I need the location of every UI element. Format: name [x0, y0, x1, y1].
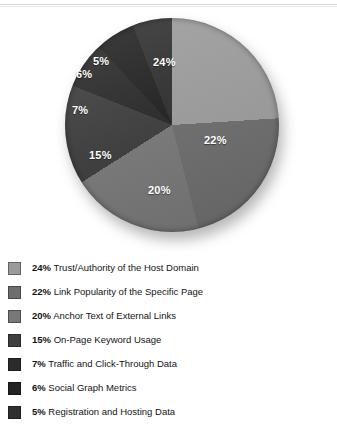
legend-percent: 22%: [32, 286, 51, 297]
legend-category-name: Link Popularity of the Specific Page: [51, 286, 203, 297]
legend-color-swatch: [8, 286, 21, 299]
legend-label: 24% Trust/Authority of the Host Domain: [32, 262, 199, 274]
legend-percent: 20%: [32, 310, 51, 321]
legend-category-name: Traffic and Click-Through Data: [46, 358, 177, 369]
legend-percent: 24%: [32, 262, 51, 273]
legend-category-name: Anchor Text of External Links: [51, 310, 176, 321]
legend-percent: 6%: [32, 382, 46, 393]
legend-label: 22% Link Popularity of the Specific Page: [32, 286, 203, 298]
legend-label: 20% Anchor Text of External Links: [32, 310, 176, 322]
legend-category-name: Registration and Hosting Data: [46, 406, 175, 417]
legend-item[interactable]: 7% Traffic and Click-Through Data: [8, 352, 328, 376]
pie-disc[interactable]: [65, 18, 279, 232]
legend-label: 15% On-Page Keyword Usage: [32, 334, 161, 346]
legend-item[interactable]: 22% Link Popularity of the Specific Page: [8, 280, 328, 304]
legend-percent: 15%: [32, 334, 51, 345]
legend-color-swatch: [8, 310, 21, 323]
legend-label: 5% Registration and Hosting Data: [32, 406, 175, 418]
legend-color-swatch: [8, 406, 21, 419]
legend-category-name: Social Graph Metrics: [46, 382, 137, 393]
legend-item[interactable]: 24% Trust/Authority of the Host Domain: [8, 256, 328, 280]
legend-label: 6% Social Graph Metrics: [32, 382, 137, 394]
legend-color-swatch: [8, 382, 21, 395]
legend-item[interactable]: 20% Anchor Text of External Links: [8, 304, 328, 328]
legend-label: 7% Traffic and Click-Through Data: [32, 358, 177, 370]
legend-percent: 7%: [32, 358, 46, 369]
legend-item[interactable]: 6% Social Graph Metrics: [8, 376, 328, 400]
legend-category-name: On-Page Keyword Usage: [51, 334, 161, 345]
legend-color-swatch: [8, 262, 21, 275]
legend-color-swatch: [8, 358, 21, 371]
legend-color-swatch: [8, 334, 21, 347]
pie-graphic: 24% 22% 20% 15% 7% 6% 5%: [65, 18, 279, 232]
legend-percent: 5%: [32, 406, 46, 417]
chart-legend: 24% Trust/Authority of the Host Domain22…: [8, 256, 328, 424]
legend-category-name: Trust/Authority of the Host Domain: [51, 262, 199, 273]
pie-chart: 24% 22% 20% 15% 7% 6% 5%: [0, 0, 337, 250]
legend-item[interactable]: 5% Registration and Hosting Data: [8, 400, 328, 424]
legend-item[interactable]: 15% On-Page Keyword Usage: [8, 328, 328, 352]
